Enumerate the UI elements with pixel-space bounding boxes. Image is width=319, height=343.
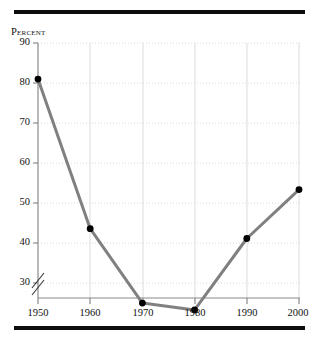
data-point-markers — [35, 76, 303, 314]
x-tick-label-1970: 1970 — [122, 307, 164, 318]
y-tick-label-50: 50 — [4, 196, 30, 207]
x-axis-ticks — [38, 298, 299, 304]
x-tick-label-1960: 1960 — [69, 307, 111, 318]
y-tick-label-30: 30 — [4, 276, 30, 287]
y-tick-label-60: 60 — [4, 156, 30, 167]
chart-figure: Percent — [0, 0, 319, 343]
horizontal-gridlines — [38, 43, 300, 283]
x-tick-label-2000: 2000 — [277, 307, 319, 318]
x-tick-label-1990: 1990 — [226, 307, 268, 318]
x-tick-label-1950: 1950 — [17, 307, 59, 318]
x-tick-label-1980: 1980 — [174, 307, 216, 318]
y-tick-label-90: 90 — [4, 36, 30, 47]
y-tick-label-40: 40 — [4, 236, 30, 247]
line-chart-plot — [0, 0, 319, 343]
y-tick-label-80: 80 — [4, 76, 30, 87]
y-tick-label-70: 70 — [4, 116, 30, 127]
data-line — [38, 79, 299, 310]
vertical-gridlines — [90, 43, 299, 298]
